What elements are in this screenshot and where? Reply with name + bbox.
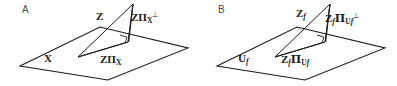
label-zf-pi-uf-perp: ZfΠUf⊥ xyxy=(325,13,359,26)
figure-canvas: A Z ZΠX⊥ ZΠX X B Zf ZfΠUf⊥ ZfΠUf Uf xyxy=(0,0,397,86)
label-z-pi-x-perp: ZΠX⊥ xyxy=(131,12,158,25)
label-vector-zf: Zf xyxy=(296,8,306,21)
label-vector-z: Z xyxy=(96,11,103,22)
label-z-pi-x: ZΠX xyxy=(100,54,121,67)
label-zf-pi-uf: ZfΠUf xyxy=(281,54,309,67)
right-angle-marker xyxy=(120,35,127,43)
label-plane-x: X xyxy=(44,53,52,64)
panel-letter-b: B xyxy=(218,4,225,15)
right-angle-marker-b xyxy=(317,35,324,43)
panel-a-graphics xyxy=(20,4,188,80)
panel-letter-a: A xyxy=(22,4,29,15)
label-plane-uf: Uf xyxy=(238,53,248,66)
